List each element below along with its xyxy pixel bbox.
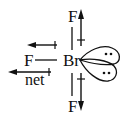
dipole-arrow-left-icon: [27, 41, 57, 49]
net-dipole-arrow-icon: [8, 68, 51, 76]
bond-and-dipole-graphics: [0, 0, 126, 121]
dipole-arrow-bottom-icon: [77, 73, 85, 111]
lone-pair-lobe-lower-icon: [80, 59, 116, 81]
dipole-arrow-top-icon: [77, 9, 85, 46]
lone-pair-lobe-upper-icon: [80, 47, 119, 65]
